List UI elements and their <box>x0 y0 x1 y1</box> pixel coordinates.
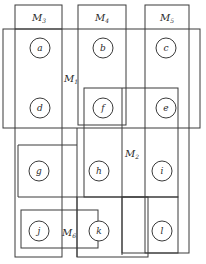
svg-text:h: h <box>96 166 102 176</box>
svg-text:b: b <box>100 43 106 53</box>
node-e: e <box>156 98 176 118</box>
node-h: h <box>89 161 109 181</box>
svg-text:d: d <box>37 103 43 113</box>
node-l: l <box>152 221 172 241</box>
node-d: d <box>30 98 50 118</box>
node-j: j <box>29 221 49 241</box>
svg-text:i: i <box>161 166 164 176</box>
label-m3: M3 <box>31 12 46 24</box>
label-m6: M6 <box>61 227 76 239</box>
label-m1: M1 <box>63 73 78 85</box>
svg-text:c: c <box>163 43 168 53</box>
svg-text:g: g <box>36 166 42 176</box>
svg-text:a: a <box>37 43 42 53</box>
node-c: c <box>156 38 176 58</box>
node-a: a <box>30 38 50 58</box>
module-diagram: M3 M4 M5 M1 M2 M6 a b c d f e g h i j k … <box>0 0 206 264</box>
svg-text:k: k <box>96 226 101 236</box>
node-i: i <box>152 161 172 181</box>
svg-text:l: l <box>161 226 164 236</box>
label-m5: M5 <box>159 12 174 24</box>
node-g: g <box>29 161 49 181</box>
label-m4: M4 <box>94 12 109 24</box>
label-m2: M2 <box>124 148 139 160</box>
node-b: b <box>93 38 113 58</box>
svg-text:e: e <box>163 103 168 113</box>
node-k: k <box>89 221 109 241</box>
node-f: f <box>93 98 113 118</box>
